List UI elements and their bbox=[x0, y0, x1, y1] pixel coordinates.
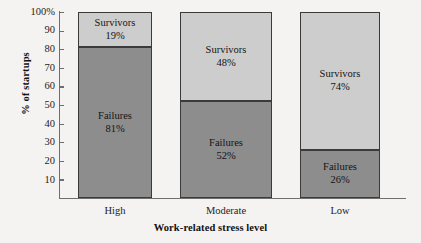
segment-value-label: 52% bbox=[216, 150, 235, 163]
x-category-label-high: High bbox=[78, 205, 152, 216]
y-tick-text: 50 bbox=[45, 100, 56, 110]
y-tick-text: 40 bbox=[45, 119, 56, 129]
y-tick-text: 80 bbox=[45, 44, 56, 54]
bar-segment-failures: Failures 81% bbox=[78, 47, 152, 198]
segment-series-label: Failures bbox=[98, 110, 132, 123]
y-tick-text: 10 bbox=[45, 175, 56, 185]
segment-value-label: 26% bbox=[330, 174, 349, 187]
y-tick-text: 100% bbox=[31, 7, 56, 17]
x-category-label-moderate: Moderate bbox=[180, 205, 272, 216]
y-tick-text: 60 bbox=[45, 81, 56, 91]
bar-segment-survivors: Survivors 74% bbox=[300, 12, 380, 150]
bar-high: Survivors 19% Failures 81% bbox=[78, 12, 152, 198]
y-axis-title: % of startups bbox=[20, 24, 31, 144]
bar-low: Survivors 74% Failures 26% bbox=[300, 12, 380, 198]
bar-segment-failures: Failures 52% bbox=[180, 101, 272, 198]
segment-value-label: 81% bbox=[105, 123, 124, 136]
bar-segment-survivors: Survivors 19% bbox=[78, 12, 152, 47]
y-tick-text: 30 bbox=[45, 137, 56, 147]
x-axis-line bbox=[59, 198, 406, 199]
bar-segment-failures: Failures 26% bbox=[300, 150, 380, 198]
segment-series-label: Failures bbox=[209, 137, 243, 150]
bar-moderate: Survivors 48% Failures 52% bbox=[180, 12, 272, 198]
segment-series-label: Survivors bbox=[320, 68, 361, 81]
y-tick-text: 70 bbox=[45, 63, 56, 73]
bar-segment-survivors: Survivors 48% bbox=[180, 12, 272, 101]
segment-value-label: 19% bbox=[105, 30, 124, 43]
y-tick-text: 20 bbox=[45, 156, 56, 166]
segment-series-label: Failures bbox=[323, 161, 357, 174]
segment-series-label: Survivors bbox=[206, 44, 247, 57]
stacked-bar-chart: % of startups 100% 90 80 70 60 50 40 30 … bbox=[0, 0, 421, 243]
y-tick-text: 90 bbox=[45, 25, 56, 35]
segment-series-label: Survivors bbox=[95, 17, 136, 30]
segment-value-label: 48% bbox=[216, 57, 235, 70]
x-axis-title: Work-related stress level bbox=[0, 222, 421, 233]
x-category-label-low: Low bbox=[300, 205, 380, 216]
y-axis-line bbox=[59, 11, 60, 199]
segment-value-label: 74% bbox=[330, 81, 349, 94]
